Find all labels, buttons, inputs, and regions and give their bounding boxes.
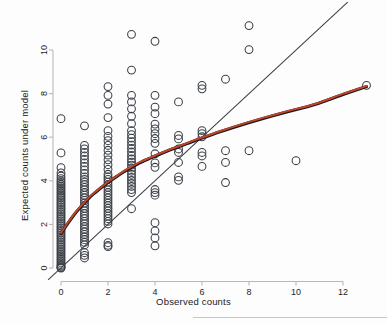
scatter-point — [198, 163, 206, 171]
scatter-point — [198, 152, 206, 160]
scatter-point — [128, 205, 136, 213]
scatter-point — [104, 100, 112, 108]
x-tick-label: 0 — [58, 287, 63, 297]
scatter-point — [175, 135, 183, 143]
y-tick-label: 8 — [39, 91, 49, 96]
scatter-points-group — [57, 22, 370, 272]
scatter-point — [151, 191, 159, 199]
scatter-point — [81, 241, 89, 249]
axes-group — [49, 50, 343, 286]
scatter-point — [81, 122, 89, 130]
scatter-point — [104, 114, 112, 122]
x-tick-label: 6 — [199, 287, 204, 297]
scatter-point — [104, 83, 112, 91]
scatter-point — [175, 149, 183, 157]
fit-lines-group — [48, 2, 366, 280]
y-tick-label: 4 — [39, 178, 49, 183]
scatter-point — [245, 22, 253, 30]
scatter-point — [151, 139, 159, 147]
scatter-point — [151, 242, 159, 250]
x-tick-label: 2 — [105, 287, 110, 297]
scatter-point — [128, 189, 136, 197]
y-axis-title: Expected counts under model — [19, 71, 30, 241]
scatter-point — [151, 110, 159, 118]
x-tick-label: 8 — [246, 287, 251, 297]
scatter-point — [245, 46, 253, 54]
scatter-point — [151, 234, 159, 242]
plot-canvas: 0246810120246810 — [0, 0, 387, 324]
scatter-point — [57, 115, 65, 123]
scatter-point — [222, 75, 230, 83]
scatter-plot-figure: 0246810120246810 Observed counts Expecte… — [0, 0, 387, 324]
x-tick-label: 4 — [152, 287, 157, 297]
y-tick-label: 2 — [39, 222, 49, 227]
scatter-point — [151, 219, 159, 227]
scatter-point — [175, 98, 183, 106]
scatter-point — [222, 179, 230, 187]
scatter-point — [128, 30, 136, 38]
scatter-point — [198, 85, 206, 93]
scatter-point — [128, 66, 136, 74]
scatter-point — [151, 37, 159, 45]
scatter-point — [292, 157, 300, 165]
y-tick-label: 0 — [39, 265, 49, 270]
scatter-point — [151, 163, 159, 171]
scatter-point — [104, 91, 112, 99]
x-axis-title: Observed counts — [0, 296, 387, 307]
scatter-point — [128, 112, 136, 120]
scatter-point — [222, 147, 230, 155]
x-tick-label: 10 — [291, 287, 301, 297]
scatter-point — [175, 159, 183, 167]
y-tick-label: 10 — [39, 45, 49, 55]
x-tick-label: 12 — [338, 287, 348, 297]
y-tick-label: 6 — [39, 135, 49, 140]
footer-rule — [193, 317, 387, 318]
scatter-point — [81, 254, 89, 262]
scatter-point — [245, 147, 253, 155]
scatter-point — [57, 149, 65, 157]
scatter-point — [175, 176, 183, 184]
scatter-point — [222, 159, 230, 167]
scatter-point — [128, 105, 136, 113]
scatter-point — [104, 243, 112, 251]
scatter-point — [151, 91, 159, 99]
